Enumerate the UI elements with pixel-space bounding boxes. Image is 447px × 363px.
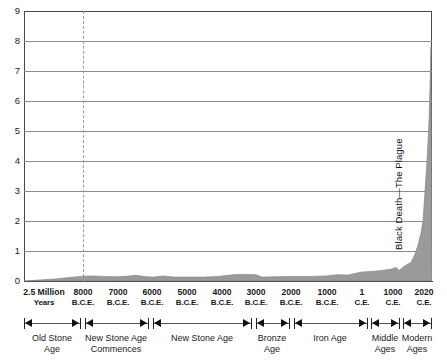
era-arrow-right-iron-age: [359, 319, 366, 327]
era-endcap-new-stone-age-commences-end: [148, 318, 149, 329]
era-arrow-left-middle-ages: [372, 319, 379, 327]
era-label-line2: Commences: [73, 344, 159, 355]
era-label-line1: Bronze: [258, 333, 287, 343]
era-arrow-left-new-stone-age: [154, 319, 161, 327]
era-arrow-right-bronze-age: [281, 319, 288, 327]
black-death-annotation: Black Death—The Plague: [393, 138, 404, 250]
y-tick-label-8: 8: [0, 36, 20, 45]
x-tick-label-primary: 1: [360, 287, 365, 297]
era-label-line2: Age: [229, 344, 315, 355]
era-arrow-left-old-stone-age: [25, 319, 32, 327]
era-arrow-left-iron-age: [295, 319, 302, 327]
era-endcap-modern-ages-end: [431, 318, 432, 329]
era-arrow-right-old-stone-age: [72, 319, 79, 327]
y-tick-label-3: 3: [0, 186, 20, 195]
era-arrow-right-new-stone-age-commences: [140, 319, 147, 327]
era-endcap-new-stone-age-end: [251, 318, 252, 329]
era-label-line1: New Stone Age: [85, 333, 147, 343]
era-endcap-iron-age-end: [367, 318, 368, 329]
population-area-curve: [24, 11, 432, 282]
x-tick-label-primary: 8000: [73, 287, 92, 297]
era-endcap-bronze-age-end: [289, 318, 290, 329]
era-arrow-right-new-stone-age: [243, 319, 250, 327]
era-label-line1: Old Stone: [32, 333, 72, 343]
y-tick-label-5: 5: [0, 126, 20, 135]
y-tick-label-0: 0: [0, 276, 20, 285]
era-arrow-left-bronze-age: [257, 319, 264, 327]
era-label-modern-ages: ModernAges: [374, 333, 447, 354]
era-label-line1: Modern: [402, 333, 433, 343]
population-history-chart: 0123456789 Black Death—The Plague 2.5 Mi…: [0, 0, 447, 363]
era-arrow-left-new-stone-age-commences: [86, 319, 93, 327]
x-axis-tick-labels: 2.5 MillionYears8000B.C.E.7000B.C.E.6000…: [0, 288, 447, 310]
era-span-line-new-stone-age-commences: [85, 323, 148, 324]
x-tick-label-primary: 3000: [246, 287, 265, 297]
historical-eras-bar: Old StoneAgeNew Stone AgeCommencesNew St…: [0, 315, 447, 363]
y-tick-label-9: 9: [0, 6, 20, 15]
y-tick-label-1: 1: [0, 246, 20, 255]
x-tick-11: 2020C.E.: [400, 288, 447, 307]
x-tick-label-primary: 4000: [212, 287, 231, 297]
era-arrow-right-middle-ages: [391, 319, 398, 327]
era-arrow-left-modern-ages: [404, 319, 411, 327]
x-tick-label-secondary: C.E.: [400, 298, 447, 308]
era-span-line-iron-age: [294, 323, 367, 324]
x-tick-label-primary: 2020: [414, 287, 433, 297]
era-label-line2: Ages: [374, 344, 447, 355]
y-tick-label-2: 2: [0, 216, 20, 225]
x-tick-label-primary: 1000: [317, 287, 336, 297]
x-tick-label-primary: 2000: [281, 287, 300, 297]
y-tick-label-6: 6: [0, 96, 20, 105]
era-endcap-middle-ages-end: [399, 318, 400, 329]
era-label-new-stone-age-commences: New Stone AgeCommences: [73, 333, 159, 354]
era-span-line-new-stone-age: [153, 323, 251, 324]
y-tick-label-7: 7: [0, 66, 20, 75]
x-tick-label-primary: 6000: [142, 287, 161, 297]
era-label-line1: New Stone Age: [171, 333, 233, 343]
era-arrow-right-modern-ages: [423, 319, 430, 327]
era-endcap-old-stone-age-end: [80, 318, 81, 329]
x-tick-label-primary: 7000: [108, 287, 127, 297]
y-tick-label-4: 4: [0, 156, 20, 165]
x-tick-label-primary: 5000: [177, 287, 196, 297]
